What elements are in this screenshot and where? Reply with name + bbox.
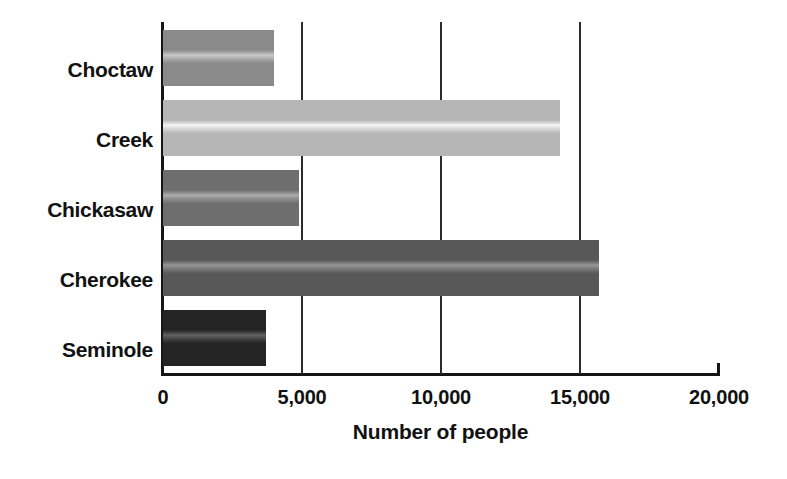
y-tick-label-choctaw: Choctaw (3, 58, 153, 82)
bar-shading (163, 30, 274, 86)
bar-shading (163, 310, 266, 366)
bar-shading (163, 170, 299, 226)
bar-chart-figure: Choctaw Creek Chickasaw Cherokee Seminol… (0, 0, 787, 479)
y-tick-label-cherokee: Cherokee (3, 268, 153, 292)
bar-chickasaw[interactable] (163, 170, 299, 226)
gridline-5000 (301, 22, 303, 374)
y-tick-label-chickasaw: Chickasaw (3, 198, 153, 222)
y-axis-tick-labels: Choctaw Creek Chickasaw Cherokee Seminol… (0, 22, 153, 374)
x-axis-title: Number of people (163, 420, 718, 444)
bar-seminole[interactable] (163, 310, 266, 366)
x-tick-label-20000: 20,000 (689, 386, 749, 409)
x-tick-label-5000: 5,000 (277, 386, 326, 409)
x-axis-end-tick (717, 363, 720, 376)
bar-shading (163, 240, 599, 296)
x-tick-label-15000: 15,000 (550, 386, 610, 409)
y-tick-label-creek: Creek (3, 128, 153, 152)
bar-shading (163, 100, 560, 156)
gridline-10000 (440, 22, 442, 374)
chart-title (0, 0, 787, 2)
plot-area (163, 22, 718, 374)
x-tick-label-10000: 10,000 (411, 386, 471, 409)
x-tick-label-0: 0 (158, 386, 169, 409)
gridline-15000 (579, 22, 581, 374)
y-tick-label-seminole: Seminole (3, 338, 153, 362)
bar-cherokee[interactable] (163, 240, 599, 296)
bar-choctaw[interactable] (163, 30, 274, 86)
bar-creek[interactable] (163, 100, 560, 156)
x-axis-tick-labels: 0 5,000 10,000 15,000 20,000 (163, 386, 718, 416)
